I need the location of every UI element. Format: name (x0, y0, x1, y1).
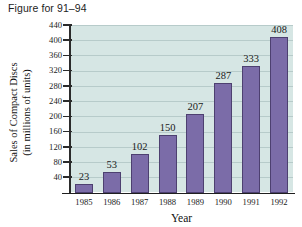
x-axis-tick-label: 1986 (98, 198, 126, 207)
bar (103, 172, 121, 192)
bar (214, 83, 232, 192)
y-axis-tick-label: 160 (36, 127, 62, 136)
bar-value-label: 333 (235, 54, 267, 65)
bar-chart: 4080120160200240280320360400440 23531021… (0, 18, 302, 227)
y-axis-tick-label: 360 (36, 51, 62, 60)
y-axis-tick-label: 80 (36, 158, 62, 167)
bar-value-label: 102 (124, 142, 156, 153)
y-axis-tick-label: 40 (36, 173, 62, 182)
bar (186, 114, 204, 193)
y-axis-tick-label: 400 (36, 36, 62, 45)
y-axis-tick-label: 200 (36, 112, 62, 121)
y-axis-tick-labels: 4080120160200240280320360400440 (34, 18, 62, 198)
bar-value-label: 287 (207, 71, 239, 82)
y-axis-tick-label: 280 (36, 82, 62, 91)
bar-value-label: 408 (263, 25, 295, 36)
bar-value-label: 207 (179, 102, 211, 113)
y-axis-title: Sales of Compact Discs (in millions of u… (8, 27, 33, 199)
bar (75, 184, 93, 193)
y-axis-tick-label: 120 (36, 143, 62, 152)
x-axis-tick-label: 1988 (154, 198, 182, 207)
x-axis-tick-label: 1985 (70, 198, 98, 207)
x-axis-tick-label: 1992 (265, 198, 293, 207)
x-axis-tick-label: 1990 (209, 198, 237, 207)
bar-value-label: 150 (152, 123, 184, 134)
y-axis-title-line-1: Sales of Compact Discs (8, 62, 19, 162)
y-axis-tick-label: 320 (36, 66, 62, 75)
x-axis-line (62, 193, 295, 195)
bar-value-label: 23 (68, 172, 100, 183)
y-axis-title-line-2: (in millions of units) (20, 27, 33, 199)
bars-layer: 2353102150207287333408 (70, 25, 293, 193)
x-axis-tick-label: 1989 (181, 198, 209, 207)
bar (242, 66, 260, 193)
y-axis-tick-label: 440 (36, 21, 62, 30)
bar-value-label: 53 (96, 160, 128, 171)
x-axis-title: Year (70, 212, 293, 224)
bar (159, 135, 177, 192)
figure-caption: Figure for 91–94 (8, 2, 87, 14)
x-axis-tick-labels: 19851986198719881989199019911992 (70, 198, 293, 212)
bar (131, 154, 149, 193)
x-axis-tick-label: 1991 (237, 198, 265, 207)
x-axis-tick-label: 1987 (126, 198, 154, 207)
bar (270, 37, 288, 192)
y-axis-tick-label: 240 (36, 97, 62, 106)
